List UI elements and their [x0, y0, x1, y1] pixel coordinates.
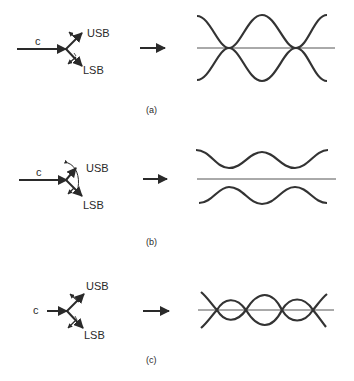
lsb-rotation-icon	[68, 57, 76, 64]
caption-a: (a)	[146, 105, 157, 115]
lower-envelope	[199, 187, 327, 204]
lsb-label: LSB	[84, 329, 105, 341]
waveform-b	[196, 150, 336, 204]
usb-arrow-icon	[66, 168, 76, 180]
waveform-c	[198, 292, 334, 328]
usb-arrow-icon	[67, 294, 84, 311]
envelope-a	[201, 292, 327, 310]
waveform-a	[197, 15, 335, 81]
panel-a: c USB LSB (a)	[17, 15, 335, 115]
usb-arrow-icon	[66, 33, 82, 49]
usb-label: USB	[86, 280, 109, 292]
upper-envelope	[197, 15, 327, 48]
upper-envelope	[196, 150, 328, 168]
usb-label: USB	[86, 162, 109, 174]
carrier-label: c	[35, 35, 41, 47]
lsb-rotation-icon	[68, 320, 76, 328]
envelope-b	[201, 310, 326, 328]
lower-envelope	[197, 48, 327, 81]
panel-c: c USB LSB (c)	[33, 280, 334, 365]
carrier-label: c	[36, 166, 42, 178]
lsb-rotation-icon	[68, 188, 74, 194]
phasor-diagram-c: c USB LSB	[33, 280, 109, 341]
phasor-diagram-b: c USB LSB	[19, 162, 109, 211]
phasor-diagram-a: c USB LSB	[17, 27, 110, 76]
caption-c: (c)	[146, 355, 157, 365]
lsb-arrow-icon	[67, 311, 83, 328]
lsb-label: LSB	[83, 199, 104, 211]
panel-b: c USB LSB (b)	[19, 150, 336, 247]
lsb-label: LSB	[83, 64, 104, 76]
sideband-phasor-figure: c USB LSB (a) c USB LSB	[0, 0, 354, 381]
caption-b: (b)	[146, 237, 157, 247]
usb-label: USB	[87, 27, 110, 39]
carrier-label: c	[33, 304, 39, 316]
